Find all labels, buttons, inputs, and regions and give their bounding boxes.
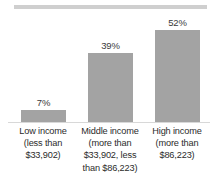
bar-column-low-income: 7% [21,12,66,122]
x-axis-label-line: (more than [139,137,215,149]
x-axis-label-middle-income: Middle income (more than $33,902, less t… [72,125,148,174]
x-axis-label-line: (less than [5,137,81,149]
bar-column-middle-income: 39% [88,12,133,122]
x-axis-label-low-income: Low income (less than $33,902) [5,125,81,162]
top-divider-rule [14,5,207,9]
bar-rect-2[interactable] [155,30,200,122]
x-axis-label-line: than $86,223) [72,162,148,174]
bar-chart: 7% 39% 52% Low income (less than $33,902… [0,0,216,187]
axis-baseline [8,122,210,123]
x-axis-label-high-income: High income (more than $86,223) [139,125,215,162]
x-axis-labels: Low income (less than $33,902) Middle in… [0,125,216,187]
x-axis-label-line: Middle income [72,125,148,137]
bar-value-label-1: 39% [88,40,133,51]
x-axis-label-line: (more than [72,137,148,149]
x-axis-label-line: $33,902) [5,149,81,161]
x-axis-label-line: $86,223) [139,149,215,161]
x-axis-label-line: Low income [5,125,81,137]
x-axis-label-line: $33,902, less [72,149,148,161]
bar-value-label-2: 52% [155,17,200,28]
bar-value-label-0: 7% [21,97,66,108]
x-axis-label-line: High income [139,125,215,137]
bar-rect-1[interactable] [88,53,133,122]
plot-area: 7% 39% 52% [0,12,216,123]
bar-rect-0[interactable] [21,110,66,122]
bar-column-high-income: 52% [155,12,200,122]
